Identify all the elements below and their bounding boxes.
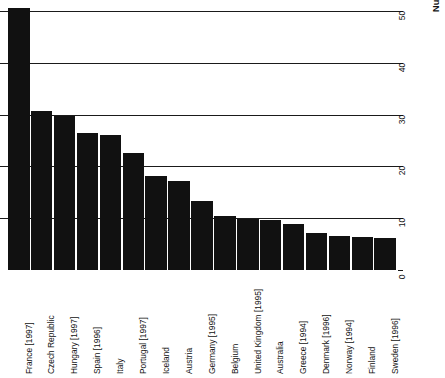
- gridline-40: [0, 63, 400, 64]
- y-axis: 01020304050 Number of prescription items…: [398, 0, 445, 290]
- x-axis-category-labels: France [1997]Czech RepublicHungary [1997…: [0, 272, 400, 378]
- bar: [100, 135, 122, 270]
- y-tick-mark-0: [398, 270, 403, 271]
- bar: [77, 133, 99, 270]
- bar: [123, 153, 145, 270]
- bar: [352, 237, 374, 270]
- bar: [329, 236, 351, 270]
- category-label: France [1997]: [25, 322, 33, 374]
- bar: [54, 116, 76, 270]
- category-label: Norway [1994]: [345, 320, 353, 374]
- bar: [145, 176, 167, 270]
- category-label: Belgium: [231, 344, 239, 374]
- category-label: Australia: [276, 341, 284, 374]
- category-label: Denmark [1996]: [322, 314, 330, 374]
- category-label: Finland: [368, 347, 376, 374]
- category-label: Sweden [1996]: [391, 318, 399, 374]
- bar: [168, 181, 190, 270]
- y-tick-label-50: 50: [398, 11, 407, 20]
- category-label: Portugal [1997]: [139, 317, 147, 374]
- category-label: Italy: [116, 359, 124, 374]
- category-label: Iceland: [162, 347, 170, 374]
- category-label: Austria: [185, 348, 193, 374]
- prescription-items-bar-chart: 01020304050 Number of prescription items…: [0, 0, 445, 378]
- bar: [260, 220, 282, 270]
- category-label: United Kingdom [1995]: [254, 289, 262, 374]
- category-label: Greece [1994]: [299, 321, 307, 374]
- category-label: Hungary [1997]: [70, 317, 78, 374]
- bar: [191, 201, 213, 270]
- y-tick-label-10: 10: [398, 218, 407, 227]
- y-axis-title: Number of prescription items per capita: [432, 0, 441, 12]
- y-tick-label-30: 30: [398, 114, 407, 123]
- gridline-50: [0, 11, 400, 12]
- bar: [31, 111, 53, 270]
- plot-area: [0, 0, 400, 271]
- bar: [306, 233, 328, 270]
- bar: [237, 219, 259, 270]
- y-tick-label-20: 20: [398, 166, 407, 175]
- y-tick-label-40: 40: [398, 63, 407, 72]
- bar: [283, 224, 305, 270]
- bar: [214, 216, 236, 270]
- category-label: Germany [1995]: [208, 314, 216, 374]
- category-label: Spain [1996]: [93, 327, 101, 374]
- category-label: Czech Republic: [47, 315, 55, 374]
- bar: [8, 8, 30, 270]
- bar: [374, 238, 396, 270]
